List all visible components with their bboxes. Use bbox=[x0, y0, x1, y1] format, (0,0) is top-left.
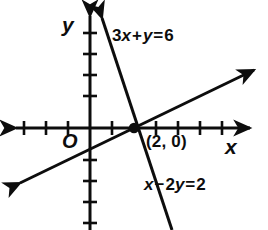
eq1-operator: + bbox=[131, 26, 143, 45]
equation-label-line-2: x−2y=2 bbox=[144, 176, 206, 193]
eq2-variable-y: y bbox=[175, 175, 184, 194]
eq1-variable-x: x bbox=[121, 26, 130, 45]
y-axis-label: y bbox=[62, 14, 74, 35]
eq2-rhs: 2 bbox=[196, 175, 205, 194]
eq1-variable-y: y bbox=[143, 26, 152, 45]
intersection-point-marker bbox=[129, 123, 139, 133]
eq2-equals: = bbox=[184, 175, 196, 194]
eq1-rhs: 6 bbox=[164, 26, 173, 45]
equation-label-line-1: 3x+y=6 bbox=[112, 27, 174, 44]
coordinate-plane-figure: y x O (2, 0) 3x+y=6 x−2y=2 bbox=[0, 0, 268, 230]
origin-label: O bbox=[62, 131, 78, 151]
eq1-equals: = bbox=[152, 26, 164, 45]
eq2-operator: − bbox=[153, 175, 165, 194]
y-axis bbox=[83, 16, 97, 230]
x-axis-label: x bbox=[225, 136, 237, 157]
eq2-coefficient: 2 bbox=[165, 175, 174, 194]
intersection-point-label: (2, 0) bbox=[146, 133, 187, 150]
